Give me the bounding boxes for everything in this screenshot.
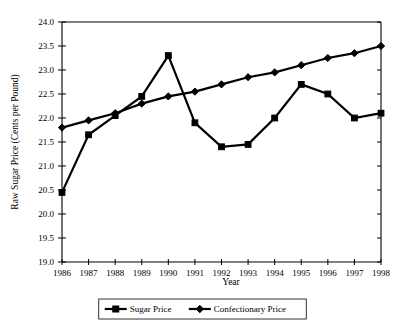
series-sugar-price (59, 53, 384, 196)
chart-legend: Sugar PriceConfectionary Price (99, 299, 307, 319)
x-tick-label: 1993 (239, 268, 258, 278)
x-tick-label: 1986 (53, 268, 72, 278)
data-point-marker (245, 142, 251, 148)
data-point-marker (377, 42, 384, 49)
y-tick-label: 21.5 (38, 137, 54, 147)
y-axis-title: Raw Sugar Price (Cents per Pound) (10, 74, 21, 209)
series-confectionary-price (58, 42, 384, 131)
x-tick-label: 1997 (345, 268, 364, 278)
data-point-marker (298, 82, 304, 88)
y-tick-label: 19.0 (38, 257, 54, 267)
legend-label: Sugar Price (130, 304, 172, 314)
x-tick-label: 1988 (106, 268, 125, 278)
x-tick-label: 1991 (186, 268, 204, 278)
chart-series (58, 42, 384, 195)
data-point-marker (165, 93, 172, 100)
y-tick-label: 24.0 (38, 17, 54, 27)
y-axis-tick-labels: 19.019.520.020.521.021.522.022.523.023.5… (38, 17, 54, 267)
data-point-marker (298, 62, 305, 69)
x-tick-label: 1996 (319, 268, 338, 278)
data-point-marker (272, 115, 278, 121)
x-tick-label: 1987 (80, 268, 99, 278)
data-point-marker (324, 54, 331, 61)
data-point-marker (139, 94, 145, 100)
y-tick-label: 23.5 (38, 41, 54, 51)
x-tick-label: 1989 (133, 268, 152, 278)
data-point-marker (196, 305, 203, 312)
series-line (62, 56, 381, 193)
data-point-marker (138, 100, 145, 107)
y-tick-label: 22.5 (38, 89, 54, 99)
x-tick-label: 1995 (292, 268, 311, 278)
y-tick-label: 20.5 (38, 185, 54, 195)
data-point-marker (219, 144, 225, 150)
y-tick-label: 21.0 (38, 161, 54, 171)
data-point-marker (351, 50, 358, 57)
data-point-marker (191, 88, 198, 95)
legend-label: Confectionary Price (214, 304, 286, 314)
data-point-marker (113, 306, 119, 312)
y-tick-label: 19.5 (38, 233, 54, 243)
data-point-marker (325, 91, 331, 97)
y-tick-label: 23.0 (38, 65, 54, 75)
data-point-marker (85, 117, 92, 124)
x-tick-label: 1990 (159, 268, 178, 278)
data-point-marker (218, 81, 225, 88)
x-tick-label: 1998 (372, 268, 391, 278)
x-axis-title-text: Year (222, 277, 240, 287)
chart-container: Raw Sugar Price (Cents per Pound) 19.019… (0, 0, 405, 329)
data-point-marker (165, 53, 171, 59)
x-tick-label: 1994 (266, 268, 285, 278)
data-point-marker (244, 74, 251, 81)
y-tick-label: 20.0 (38, 209, 54, 219)
y-axis-title-text: Raw Sugar Price (Cents per Pound) (10, 74, 21, 209)
x-axis-title: Year (222, 277, 240, 287)
data-point-marker (352, 115, 358, 121)
data-point-marker (58, 124, 65, 131)
data-point-marker (192, 120, 198, 126)
y-tick-label: 22.0 (38, 113, 54, 123)
data-point-marker (86, 132, 92, 138)
data-point-marker (271, 69, 278, 76)
line-chart: Raw Sugar Price (Cents per Pound) 19.019… (0, 0, 405, 329)
data-point-marker (59, 190, 65, 196)
data-point-marker (378, 110, 384, 116)
